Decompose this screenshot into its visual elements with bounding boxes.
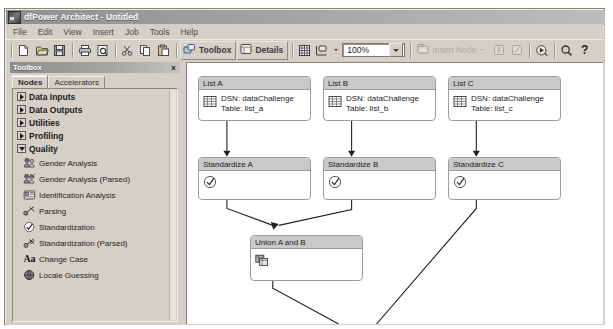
tree-item-gender-analysis[interactable]: Gender Analysis (14, 155, 171, 171)
zoom-dropdown-arrow[interactable] (389, 43, 403, 57)
tree-item-change-case[interactable]: Aa Change Case (14, 251, 171, 267)
tree-item-label: Gender Analysis (Parsed) (39, 175, 130, 184)
flow-node-standardize-c[interactable]: Standardize C (448, 157, 561, 200)
union-icon (255, 253, 269, 267)
table-icon (453, 94, 467, 108)
menu-item-edit[interactable]: Edit (37, 27, 54, 37)
flow-node-title: Union A and B (255, 238, 306, 247)
job-flow-canvas[interactable]: List A DSN: dataChallenge Table: list_a (186, 62, 603, 324)
table-icon (203, 94, 217, 108)
flow-node-list-a[interactable]: List A DSN: dataChallenge Table: list_a (198, 76, 311, 121)
copy-icon[interactable] (137, 42, 154, 59)
run-job-icon[interactable] (533, 42, 550, 59)
zoom-combo[interactable]: 100% (342, 43, 405, 57)
node-properties-icon[interactable] (490, 42, 507, 59)
help-icon[interactable]: ? (576, 42, 593, 59)
tree-item-standardization[interactable]: Standardization (14, 219, 171, 235)
expander-expanded-icon[interactable] (17, 144, 26, 153)
print-icon[interactable] (76, 42, 93, 59)
flow-node-union-a-and-b[interactable]: Union A and B (250, 235, 363, 281)
toolbox-button[interactable]: Toolbox (180, 41, 236, 60)
flow-node-list-c[interactable]: List C DSN: dataChallenge Table: list_c (448, 76, 561, 121)
toolbox-button-label: Toolbox (199, 45, 231, 55)
standardization-icon (453, 175, 467, 189)
flow-node-standardize-b[interactable]: Standardize B (323, 157, 436, 200)
toolbar-separator (410, 43, 411, 58)
tree-category-label: Profiling (29, 131, 63, 141)
tab-nodes[interactable]: Nodes (12, 75, 48, 88)
tree-item-parsing[interactable]: Parsing (14, 203, 171, 219)
search-icon[interactable] (558, 42, 575, 59)
standardization-icon (203, 175, 217, 189)
flow-node-header: Union A and B (251, 236, 362, 249)
flow-node-body (324, 171, 435, 192)
parsing-icon (23, 205, 36, 218)
tree-item-identification-analysis[interactable]: Identification Analysis (14, 187, 171, 203)
tree-category-data-inputs[interactable]: Data Inputs (14, 90, 171, 103)
insert-node-label: Insert Node (432, 45, 476, 55)
dsn-line: DSN: dataChallenge (346, 94, 419, 103)
window-title: dfPower Architect - Untitled (24, 12, 138, 22)
flow-node-title: List C (453, 79, 473, 88)
layout-dropdown-arrow[interactable] (332, 42, 339, 59)
grid-icon[interactable] (296, 42, 313, 59)
print-preview-icon[interactable] (94, 42, 111, 59)
details-button[interactable]: Details (237, 41, 288, 60)
tree-item-gender-analysis-parsed[interactable]: Gender Analysis (Parsed) (14, 171, 171, 187)
toolbox-caption-bar: Toolbox x (10, 62, 180, 73)
node-duplicate-icon[interactable] (508, 42, 525, 59)
tab-accelerators[interactable]: Accelerators (48, 76, 104, 88)
flow-node-body (199, 171, 310, 192)
toolbox-caption-label: Toolbox (10, 63, 42, 72)
tree-category-label: Quality (29, 144, 58, 154)
expander-collapsed-icon[interactable] (17, 105, 26, 114)
toolbox-icon (183, 41, 196, 59)
menu-item-help[interactable]: Help (179, 27, 198, 37)
menu-item-insert[interactable]: Insert (92, 27, 115, 37)
dsn-line: DSN: dataChallenge (471, 94, 544, 103)
flow-node-title: Standardize B (328, 160, 378, 169)
menu-item-tools[interactable]: Tools (149, 27, 171, 37)
expander-collapsed-icon[interactable] (17, 92, 26, 101)
locale-guessing-icon (23, 269, 36, 282)
new-icon[interactable] (15, 42, 32, 59)
main-toolbar: Toolbox Details (6, 39, 605, 60)
layout-icon[interactable] (314, 42, 331, 59)
toolbar-separator (176, 43, 177, 58)
flow-node-header: Standardize C (449, 158, 560, 171)
toolbar-separator (72, 43, 73, 58)
flow-node-standardize-a[interactable]: Standardize A (198, 157, 311, 200)
open-icon[interactable] (33, 42, 50, 59)
flow-node-header: List C (449, 77, 560, 90)
flow-node-header: Standardize A (199, 158, 310, 171)
tree-category-quality[interactable]: Quality (14, 142, 171, 155)
standardization-icon (328, 175, 342, 189)
close-icon[interactable]: x (169, 63, 178, 72)
save-icon[interactable] (51, 42, 68, 59)
menu-item-file[interactable]: File (12, 27, 28, 37)
tree-item-locale-guessing[interactable]: Locale Guessing (14, 267, 171, 283)
paste-icon[interactable] (155, 42, 172, 59)
menu-bar: File Edit View Insert Job Tools Help (6, 25, 605, 38)
menu-item-view[interactable]: View (62, 27, 82, 37)
tree-category-data-outputs[interactable]: Data Outputs (14, 103, 171, 116)
node-tree[interactable]: Data Inputs Data Outputs Utilities (12, 88, 178, 322)
toolbar-separator (115, 43, 116, 58)
insert-node-button[interactable]: Insert Node (414, 41, 489, 60)
expander-collapsed-icon[interactable] (17, 131, 26, 140)
tree-category-label: Utilities (29, 118, 60, 128)
tree-category-profiling[interactable]: Profiling (14, 129, 171, 142)
tree-item-standardization-parsed[interactable]: Standardization (Parsed) (14, 235, 171, 251)
tree-category-utilities[interactable]: Utilities (14, 116, 171, 129)
flow-node-title: List A (203, 79, 223, 88)
menu-item-job[interactable]: Job (124, 27, 140, 37)
cut-icon[interactable] (119, 42, 136, 59)
flow-node-list-b[interactable]: List B DSN: dataChallenge Table: list_b (323, 76, 436, 121)
node-tree-scrollbar[interactable] (169, 90, 176, 320)
expander-collapsed-icon[interactable] (17, 118, 26, 127)
tree-item-label: Identification Analysis (39, 191, 116, 200)
details-button-label: Details (255, 45, 283, 55)
flow-node-body (251, 249, 362, 270)
toolbar-separator (554, 43, 555, 58)
chevron-down-icon (334, 49, 338, 51)
